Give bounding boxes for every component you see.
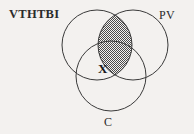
set-label-bottom: C [104,116,112,128]
set-label-right: PV [159,9,175,21]
venn-diagram: VTHTBI PV C X [0,0,194,134]
region-marker-x: X [98,62,107,75]
set-label-left: VTHTBI [9,8,59,21]
